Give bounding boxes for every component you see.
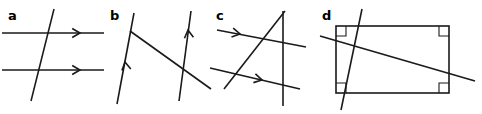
rectangle-shape xyxy=(336,26,449,93)
panel-label-c: c xyxy=(216,8,224,23)
panel-d: d xyxy=(320,8,475,110)
right-angle-mark-top-right xyxy=(439,26,449,36)
transversal-line xyxy=(31,9,54,101)
right-angle-mark-top-left xyxy=(336,26,346,36)
panel-c: c xyxy=(210,8,306,106)
transversal-line xyxy=(130,31,211,89)
left-line xyxy=(117,13,134,104)
panel-a: a xyxy=(2,8,104,101)
lower-transversal-line xyxy=(210,68,300,89)
panel-label-b: b xyxy=(110,8,119,23)
diagonal-line-shallow xyxy=(320,36,475,81)
panel-label-d: d xyxy=(322,8,331,23)
geometry-figure-svg: abcd xyxy=(0,0,482,114)
diagonal-line-steep xyxy=(341,9,362,110)
panel-label-a: a xyxy=(8,8,17,23)
panel-b: b xyxy=(110,8,211,104)
right-line xyxy=(179,11,191,101)
slanted-line xyxy=(224,11,285,89)
upper-transversal-line xyxy=(217,30,306,47)
right-angle-mark-bottom-right xyxy=(439,83,449,93)
right-line-arrowhead xyxy=(184,30,193,38)
figure-root: abcd xyxy=(0,0,482,114)
